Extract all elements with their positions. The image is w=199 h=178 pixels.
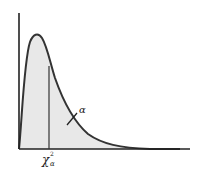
chi-square-diagram: α χ 2 α xyxy=(0,0,199,178)
chi-square-label: χ xyxy=(41,153,50,167)
chi-square-sup: 2 xyxy=(50,150,54,157)
chi-square-sub: α xyxy=(50,160,55,168)
alpha-label: α xyxy=(79,104,86,115)
shaded-area xyxy=(19,35,180,149)
